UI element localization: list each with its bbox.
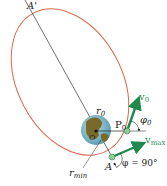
focus-label: O <box>89 133 96 142</box>
phi-90-label: φ = 90° <box>122 158 158 168</box>
vmax-arrow <box>112 144 142 157</box>
v0-label: v0 <box>138 91 149 104</box>
perigee-label: A <box>104 161 112 172</box>
phi0-label: φ0 <box>140 114 152 127</box>
p0-label: P0 <box>115 119 126 132</box>
apogee-label: A' <box>26 0 37 11</box>
phi0-arc <box>131 121 139 131</box>
perigee-point-a <box>109 154 115 160</box>
orbit-diagram: A' r0 O P0 v0 φ0 vmax A φ = 90° rmin <box>0 0 167 186</box>
vmax-label: vmax <box>144 134 165 147</box>
rmin-label: rmin <box>69 167 88 180</box>
